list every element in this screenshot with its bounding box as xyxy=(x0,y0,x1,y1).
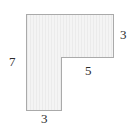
dimension-label-left: 7 xyxy=(9,55,16,68)
figure-canvas: 7 3 5 3 xyxy=(0,0,136,126)
dimension-label-bottom: 3 xyxy=(41,112,48,125)
dimension-label-inner-bottom: 5 xyxy=(85,64,92,77)
dimension-label-right: 3 xyxy=(120,28,127,41)
l-shape-diagram xyxy=(0,0,136,126)
l-shape-polygon xyxy=(26,14,113,110)
